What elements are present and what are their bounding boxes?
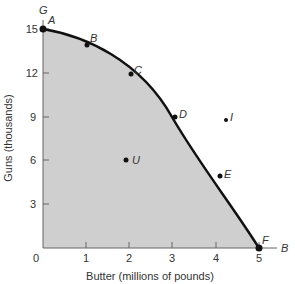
point-label-e: E [224, 168, 232, 180]
y-tick-label: 3 [30, 198, 36, 210]
point-label-i: I [230, 111, 233, 123]
y-axis-title: Guns (thousands) [2, 94, 14, 181]
y-tick-label: 9 [30, 111, 36, 123]
attainable-region [43, 29, 259, 248]
x-axis-end-label: B [281, 242, 288, 254]
x-tick-label: 1 [83, 252, 89, 264]
x-axis-title: Butter (millions of pounds) [86, 270, 214, 282]
point-label-b: B [90, 32, 97, 44]
point-label-u: U [132, 154, 140, 166]
y-tick-label: 12 [26, 67, 38, 79]
y-tick-label: 15 [26, 23, 38, 35]
point-label-f: F [262, 234, 270, 246]
y-axis-end-label: G [39, 4, 48, 16]
y-tick-label: 6 [30, 154, 36, 166]
x-tick-label: 0 [33, 252, 39, 264]
ppf-chart: A B C D E F U I G B 3 6 9 12 15 0 1 2 3 … [0, 0, 295, 284]
x-tick-label: 3 [169, 252, 175, 264]
point-label-d: D [179, 108, 187, 120]
x-tick-label: 4 [213, 252, 219, 264]
point-label-c: C [134, 64, 142, 76]
point-label-a: A [47, 14, 55, 26]
x-tick-label: 2 [126, 252, 132, 264]
x-tick-label: 5 [256, 252, 262, 264]
